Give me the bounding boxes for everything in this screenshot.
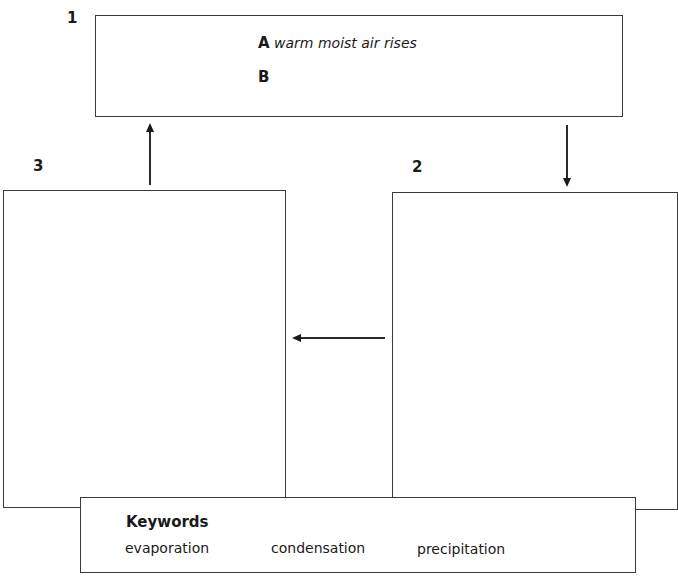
step-a: A warm moist air rises [258,34,417,52]
stage-3-box [3,190,286,508]
stage-number-3: 3 [33,157,43,175]
step-a-letter: A [258,34,270,52]
stage-2-box [392,192,678,510]
keywords-box: Keywords evaporation condensation precip… [80,497,636,573]
arrowhead-up-icon [146,123,154,132]
keyword-evaporation: evaporation [125,540,209,556]
stage-number-1: 1 [67,9,77,27]
step-b: B [258,68,269,86]
arrow-shaft [149,131,151,185]
arrowhead-left-icon [292,334,301,342]
step-b-letter: B [258,68,269,86]
keyword-condensation: condensation [271,540,365,556]
step-a-text: warm moist air rises [274,35,417,51]
arrow-shaft [566,125,568,179]
arrowhead-down-icon [563,178,571,187]
arrow-shaft [300,337,385,339]
keyword-precipitation: precipitation [417,541,505,557]
stage-1-box: A warm moist air rises B [95,15,623,117]
keywords-title: Keywords [126,513,209,531]
stage-number-2: 2 [412,158,422,176]
